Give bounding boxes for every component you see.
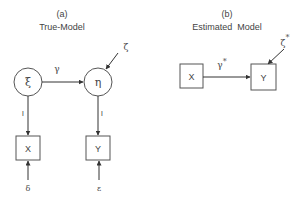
panel-a-label: (a): [57, 9, 68, 19]
loading-x-label: l: [22, 109, 24, 118]
gamma-label: γ: [54, 64, 59, 74]
observed-y-node: Y: [251, 64, 276, 90]
latent-eta-node: η: [84, 68, 112, 96]
zeta-star-arrow: [268, 49, 284, 64]
gamma-star-label: γ*: [217, 57, 226, 70]
eta-symbol: η: [95, 76, 102, 89]
loading-y-label: l: [101, 109, 103, 118]
delta-label: δ: [26, 184, 31, 193]
panel-a-title: True-Model: [39, 22, 85, 32]
panel-b-title: Estimated Model: [192, 22, 262, 32]
star-superscript: *: [223, 57, 227, 66]
indicator-y-label: Y: [95, 144, 101, 154]
zeta-arrow: [106, 53, 118, 69]
zeta-star-label: ζ*: [281, 33, 290, 48]
sem-diagram: (a) True-Model ξ η γ ζ l l X Y: [0, 0, 306, 202]
panel-b-label: (b): [222, 9, 233, 19]
observed-y-label: Y: [260, 73, 266, 83]
indicator-x-label: X: [25, 144, 31, 154]
xi-symbol: ξ: [25, 76, 31, 89]
zeta-label: ζ: [124, 42, 129, 52]
observed-x-label: X: [188, 72, 194, 82]
panel-a-true-model: (a) True-Model ξ η γ ζ l l X Y: [14, 9, 129, 193]
latent-xi-node: ξ: [14, 68, 42, 96]
epsilon-label: ε: [97, 184, 101, 193]
indicator-y-node: Y: [86, 136, 110, 160]
star-superscript: *: [285, 33, 289, 42]
panel-b-estimated-model: (b) Estimated Model X Y γ* ζ*: [180, 9, 289, 90]
observed-x-node: X: [180, 64, 203, 88]
indicator-x-node: X: [16, 136, 40, 160]
